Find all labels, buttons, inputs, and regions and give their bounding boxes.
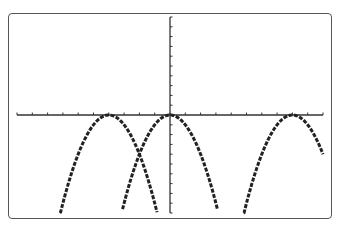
parabola-plot bbox=[0, 0, 343, 228]
parabola-curve bbox=[60, 115, 157, 213]
axes bbox=[17, 17, 323, 213]
curves bbox=[60, 115, 323, 213]
parabola-curve bbox=[243, 115, 323, 213]
